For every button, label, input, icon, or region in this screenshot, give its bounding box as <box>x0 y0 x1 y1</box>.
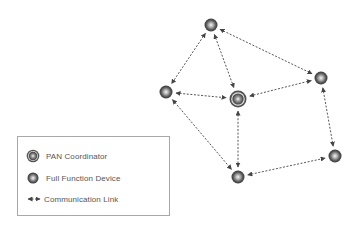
legend-label: Full Function Device <box>46 174 120 183</box>
communication-link <box>250 81 312 97</box>
full-function-device-node <box>160 86 173 99</box>
communication-link <box>220 29 312 73</box>
legend-item-pan-coordinator: PAN Coordinator <box>26 149 107 163</box>
communication-link <box>176 93 226 98</box>
network-nodes <box>160 19 342 184</box>
pan-coordinator-node <box>230 91 247 108</box>
legend-label: Communication Link <box>44 195 118 204</box>
full-function-device-node <box>315 72 328 85</box>
communication-link <box>248 158 325 175</box>
legend-label: PAN Coordinator <box>46 152 107 161</box>
legend: PAN Coordinator Full Function Device Com… <box>17 136 170 216</box>
legend-item-communication-link: Communication Link <box>26 192 118 206</box>
communication-link <box>323 88 333 146</box>
communication-link <box>214 34 234 87</box>
full-function-device-node <box>232 171 245 184</box>
pan-coordinator-icon <box>26 149 40 163</box>
legend-item-full-function-device: Full Function Device <box>26 171 120 185</box>
communication-link <box>173 100 232 170</box>
full-function-device-node <box>329 150 342 163</box>
communication-link <box>172 33 206 83</box>
full-function-device-icon <box>26 171 40 185</box>
full-function-device-node <box>205 19 218 32</box>
communication-link-icon <box>26 192 42 206</box>
communication-links <box>172 29 334 175</box>
